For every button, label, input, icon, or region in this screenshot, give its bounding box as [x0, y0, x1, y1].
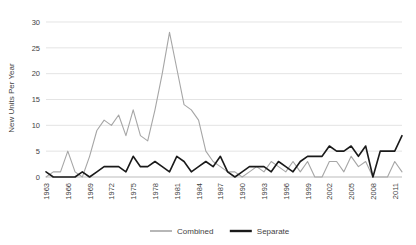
x-tick-label: 1969 — [86, 183, 95, 200]
data-series-group — [46, 32, 402, 177]
x-tick-label: 1990 — [238, 183, 247, 200]
line-chart: 051015202530 New Units Per Year 19631966… — [0, 0, 416, 245]
y-tick-label: 25 — [32, 44, 40, 53]
x-tick-label: 1987 — [216, 183, 225, 200]
y-axis-title: New Units Per Year — [7, 63, 16, 133]
x-tick-label: 1972 — [107, 183, 116, 200]
x-tick-label: 1996 — [282, 183, 291, 200]
x-tick-label: 1984 — [195, 183, 204, 200]
y-tick-label: 15 — [32, 95, 40, 104]
x-tick-label: 1978 — [151, 183, 160, 200]
y-tick-label: 0 — [36, 173, 40, 182]
y-tick-label: 30 — [32, 18, 40, 27]
gridlines-group — [46, 22, 402, 177]
legend-label-combined: Combined — [177, 227, 213, 236]
x-tick-label: 1975 — [129, 183, 138, 200]
x-tick-label: 1999 — [304, 183, 313, 200]
x-tick-label: 1966 — [64, 183, 73, 200]
chart-container: 051015202530 New Units Per Year 19631966… — [0, 0, 416, 245]
series-line-combined — [46, 32, 402, 177]
y-tick-label: 20 — [32, 69, 40, 78]
legend-label-separate: Separate — [257, 227, 290, 236]
x-tick-label: 2011 — [391, 183, 400, 199]
y-tick-label: 10 — [32, 121, 40, 130]
y-tick-label: 5 — [36, 147, 40, 156]
x-tick-label: 2002 — [325, 183, 334, 200]
y-axis-tick-labels: 051015202530 — [32, 18, 40, 182]
x-tick-label: 1963 — [42, 183, 51, 200]
x-tick-label: 2005 — [347, 183, 356, 200]
chart-legend: CombinedSeparate — [150, 227, 290, 236]
series-line-separate — [46, 136, 402, 177]
x-axis-tick-labels: 1963196619691972197519781981198419871990… — [42, 183, 400, 200]
x-tick-label: 1981 — [173, 183, 182, 200]
x-tick-label: 2008 — [369, 183, 378, 200]
x-tick-label: 1993 — [260, 183, 269, 200]
